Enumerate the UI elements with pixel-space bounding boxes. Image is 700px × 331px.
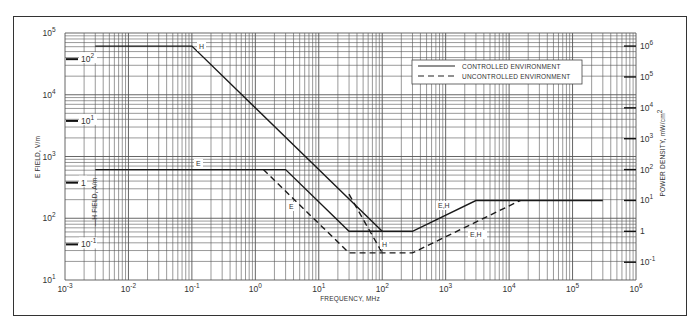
tick-label: 10-3 xyxy=(57,282,73,294)
tick-label: 106 xyxy=(629,282,642,294)
x-axis-title: FREQUENCY, MHz xyxy=(320,295,380,303)
y-axis-right-title: POWER DENSITY, mW/cm2 xyxy=(656,109,666,196)
curve-label-eh-controlled: E,H xyxy=(438,202,450,209)
tick-label: 103 xyxy=(42,150,55,162)
curve-uncontrolled-h xyxy=(349,194,382,253)
tick-label: 101 xyxy=(640,193,653,205)
tick-label: 103 xyxy=(640,132,653,144)
tick-label: 101 xyxy=(42,273,55,285)
tick-label: 106 xyxy=(640,39,653,51)
tick-label: 104 xyxy=(42,88,55,100)
curve-label-e-uncontrolled: E xyxy=(289,203,294,210)
legend: CONTROLLED ENVIRONMENT UNCONTROLLED ENVI… xyxy=(412,60,582,84)
curve-label-eh-uncontrolled: E,H xyxy=(470,231,482,238)
tick-label: 10-2 xyxy=(121,282,137,294)
tick-label: 1 xyxy=(640,226,645,236)
curve-label-h-uncontrolled: H xyxy=(382,241,387,248)
tick-label: 102 xyxy=(376,282,389,294)
chart-svg: 10-310-210-11001011021031041051061011021… xyxy=(0,0,700,331)
tick-label: 105 xyxy=(42,26,55,38)
tick-label: 105 xyxy=(566,282,579,294)
curve-label-e-controlled: E xyxy=(196,160,201,167)
tick-label: 1 xyxy=(81,178,86,188)
tick-label: 103 xyxy=(439,282,452,294)
tick-label: 102 xyxy=(640,163,653,175)
tick-label: 105 xyxy=(640,70,653,82)
tick-label: 104 xyxy=(503,282,516,294)
legend-uncontrolled-label: UNCONTROLLED ENVIRONMENT xyxy=(462,73,570,80)
tick-label: 101 xyxy=(312,282,325,294)
curve-label-h-controlled: H xyxy=(199,43,204,50)
tick-label: 10-1 xyxy=(184,282,200,294)
tick-label: 102 xyxy=(42,211,55,223)
curve-uncontrolled-e xyxy=(263,170,520,253)
curve-controlled-h xyxy=(95,46,382,231)
legend-controlled-label: CONTROLLED ENVIRONMENT xyxy=(462,63,561,70)
tick-label: 10-1 xyxy=(640,255,656,267)
y-axis-left-title: E FIELD, V/m xyxy=(34,136,41,178)
tick-label: 100 xyxy=(249,282,262,294)
tick-label: 104 xyxy=(640,101,653,113)
y-axis-h-field-title: —H FIELD, A/m xyxy=(91,178,98,227)
